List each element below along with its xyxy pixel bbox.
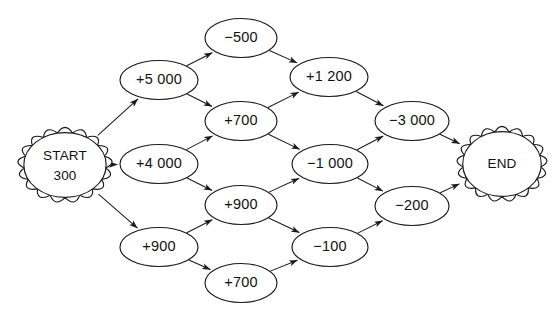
edge-c2a-to-c3a (269, 51, 297, 63)
node-label: −200 (395, 197, 428, 213)
lattice-graph: START300+5 000+4 000+900−500+700+900+700… (0, 0, 557, 322)
edge-c1b-to-c2b (186, 136, 212, 150)
diagram-canvas: START300+5 000+4 000+900−500+700+900+700… (0, 0, 557, 322)
node-label: +4 000 (136, 155, 182, 171)
node-c1c[interactable]: +900 (120, 228, 198, 267)
node-start[interactable]: START300 (18, 127, 112, 202)
edge-c1a-to-c2b (187, 94, 212, 106)
edge-c1a-to-c2a (187, 53, 213, 66)
node-layer: START300+5 000+4 000+900−500+700+900+700… (18, 19, 547, 303)
node-label: +700 (224, 274, 257, 290)
node-c2b[interactable]: +700 (205, 102, 277, 141)
node-c3b[interactable]: −1 000 (292, 145, 368, 184)
node-c2a[interactable]: −500 (205, 19, 277, 58)
edge-c4b-to-end (440, 184, 459, 193)
node-label: +1 200 (306, 68, 352, 84)
node-label: −3 000 (389, 112, 435, 128)
edge-c1c-to-c2c (187, 220, 213, 233)
edge-c1c-to-c2d (189, 260, 211, 270)
edge-start-to-c1c (98, 194, 137, 228)
node-label-line2: 300 (53, 168, 76, 183)
node-c3a[interactable]: +1 200 (290, 58, 368, 97)
edge-c1b-to-c2c (187, 178, 212, 190)
edge-c3b-to-c4b (357, 178, 383, 191)
node-label: +900 (142, 238, 175, 254)
node-label: −100 (313, 238, 346, 254)
node-inner-ellipse (24, 133, 106, 198)
edge-c2c-to-c3b (269, 178, 299, 192)
node-label: +900 (224, 196, 257, 212)
node-label: −1 000 (307, 155, 353, 171)
node-end[interactable]: END (457, 126, 547, 201)
edge-c2c-to-c3c (269, 218, 300, 233)
edge-start-to-c1a (98, 99, 138, 135)
node-label: +700 (224, 112, 257, 128)
node-c2d[interactable]: +700 (205, 264, 277, 303)
edge-c2b-to-c3b (268, 134, 299, 149)
edge-c4a-to-end (440, 134, 460, 143)
node-c4b[interactable]: −200 (375, 187, 449, 226)
node-label-line1: START (43, 148, 87, 163)
node-c3c[interactable]: −100 (292, 228, 368, 267)
edge-c3a-to-c4a (356, 91, 383, 105)
edge-c3c-to-c4b (358, 221, 383, 233)
node-label-line1: END (487, 156, 516, 171)
node-label: +5 000 (136, 71, 182, 87)
node-c2c[interactable]: +900 (205, 186, 277, 225)
node-c1a[interactable]: +5 000 (120, 61, 198, 100)
node-label: −500 (224, 29, 257, 45)
edge-c3b-to-c4a (357, 136, 383, 150)
edge-c2d-to-c3c (270, 260, 297, 271)
edge-c2b-to-c3a (268, 92, 299, 107)
node-c4a[interactable]: −3 000 (375, 102, 449, 141)
node-c1b[interactable]: +4 000 (120, 145, 198, 184)
